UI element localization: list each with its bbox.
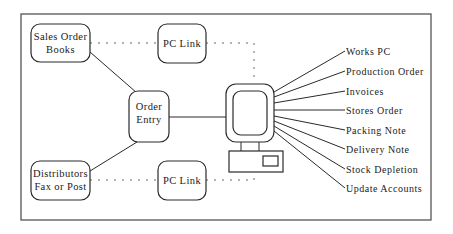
fan-line-works-pc xyxy=(274,51,345,92)
pc-link-bottom-label: PC Link xyxy=(163,175,201,186)
fan-line-packing-note xyxy=(274,116,345,130)
node-order-entry: Order Entry xyxy=(129,91,169,142)
fan-line-delivery-note xyxy=(274,121,345,149)
output-label: Works PC xyxy=(346,46,391,57)
node-distributors-fax-or-post: Distributors Fax or Post xyxy=(31,161,90,200)
monitor-screen xyxy=(233,91,267,135)
order-flow-diagram: Sales Order Books PC Link Order Entry Di… xyxy=(0,0,453,234)
output-label: Production Order xyxy=(346,66,424,77)
fan-line-update-accounts xyxy=(274,131,345,188)
dotted-link-pclink-to-computer-top xyxy=(206,43,254,80)
output-label: Packing Note xyxy=(346,125,406,136)
sales-order-books-line1: Sales Order xyxy=(34,31,88,42)
fan-line-stock-depletion xyxy=(274,126,345,169)
node-pc-link-top: PC Link xyxy=(158,24,206,63)
dotted-link-pclink-to-computer-bottom xyxy=(206,174,254,180)
pc-link-top-label: PC Link xyxy=(163,38,201,49)
order-entry-line2: Entry xyxy=(136,114,162,125)
distributors-line1: Distributors xyxy=(33,168,88,179)
output-label: Delivery Note xyxy=(346,144,409,155)
node-pc-link-bottom: PC Link xyxy=(158,161,206,200)
sales-order-books-line2: Books xyxy=(46,44,75,55)
output-label: Stock Depletion xyxy=(346,164,418,175)
output-label: Invoices xyxy=(346,86,384,97)
distributors-line2: Fax or Post xyxy=(34,181,86,192)
edge-sales-to-order-entry xyxy=(90,52,137,93)
node-sales-order-books: Sales Order Books xyxy=(31,24,90,62)
edge-distributors-to-order-entry xyxy=(90,142,137,171)
output-label: Stores Order xyxy=(346,105,403,116)
disk-drive xyxy=(263,156,278,166)
output-label: Update Accounts xyxy=(346,183,422,194)
order-entry-line1: Order xyxy=(136,101,163,112)
output-labels: Works PC Production Order Invoices Store… xyxy=(346,46,424,194)
computer-icon xyxy=(226,84,283,172)
output-fan-lines xyxy=(274,51,345,188)
